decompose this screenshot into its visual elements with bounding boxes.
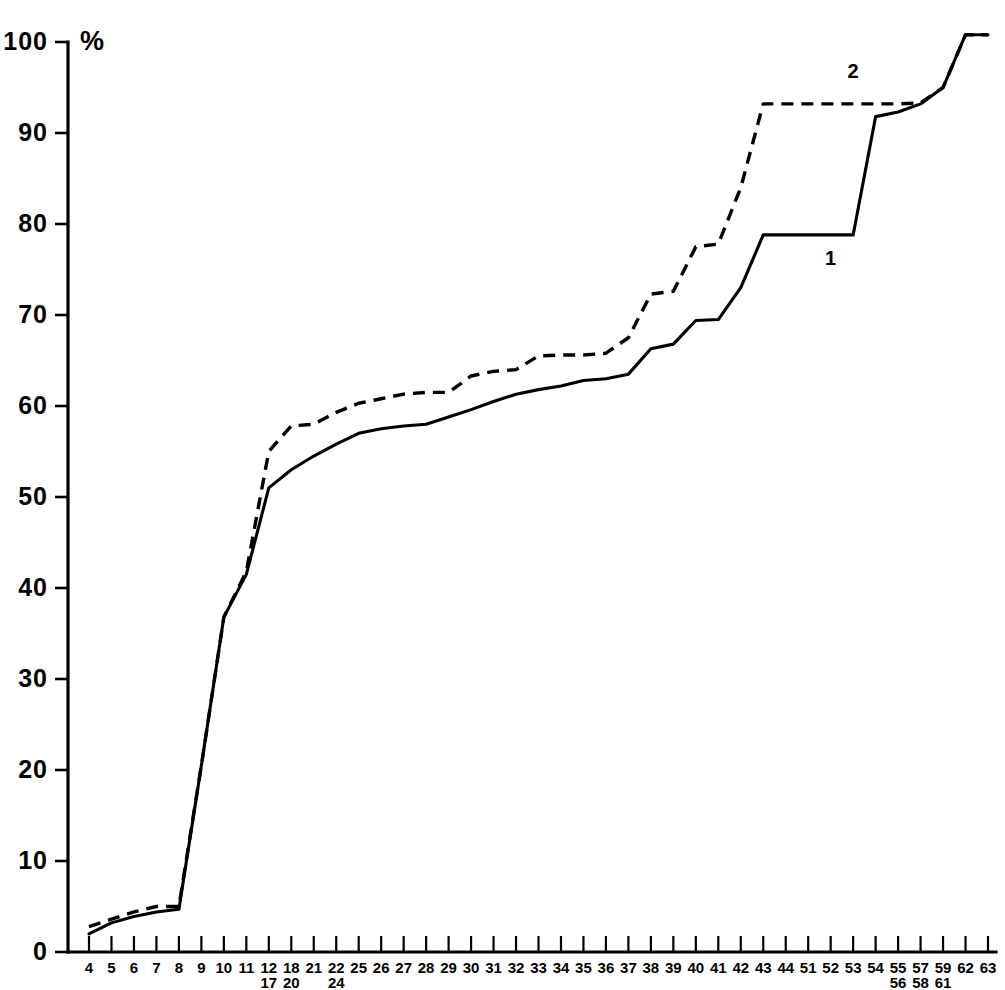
x-tick-label-40: 40	[687, 959, 704, 976]
y-tick-label-70: 70	[18, 300, 48, 328]
chart-canvas: 0102030405060708090100 45678910111217182…	[0, 0, 1005, 990]
x-tick-label-26: 26	[373, 959, 390, 976]
x-tick-sublabel-24: 24	[328, 974, 345, 990]
x-tick-group	[89, 936, 988, 952]
x-tick-label-35: 35	[575, 959, 592, 976]
x-tick-sublabel-61: 61	[935, 974, 952, 990]
x-tick-label-34: 34	[553, 959, 570, 976]
y-tick-label-60: 60	[18, 391, 48, 419]
chart-figure: 0102030405060708090100 45678910111217182…	[0, 0, 1005, 990]
y-tick-label-30: 30	[18, 664, 48, 692]
x-tick-label-54: 54	[867, 959, 884, 976]
x-tick-label-53: 53	[845, 959, 862, 976]
y-tick-label-80: 80	[18, 209, 48, 237]
x-tick-sublabel-20: 20	[283, 974, 300, 990]
y-tick-label-20: 20	[18, 755, 48, 783]
y-tick-label-0: 0	[33, 937, 48, 965]
x-tick-label-51: 51	[800, 959, 817, 976]
x-tick-label-8: 8	[175, 959, 183, 976]
x-tick-label-32: 32	[508, 959, 525, 976]
y-tick-label-50: 50	[18, 482, 48, 510]
x-tick-label-42: 42	[732, 959, 749, 976]
series-group	[89, 35, 988, 934]
x-tick-label-11: 11	[238, 959, 254, 976]
series-line-1	[89, 35, 988, 934]
x-tick-label-group: 4567891011121718202122242526272829303132…	[85, 959, 997, 990]
series-annotation-2: 2	[848, 60, 859, 82]
x-tick-label-31: 31	[485, 959, 502, 976]
x-tick-label-33: 33	[530, 959, 547, 976]
x-tick-label-39: 39	[665, 959, 682, 976]
x-tick-sublabel-17: 17	[260, 974, 277, 990]
x-tick-label-44: 44	[777, 959, 794, 976]
x-tick-label-6: 6	[130, 959, 138, 976]
x-tick-label-27: 27	[395, 959, 412, 976]
x-tick-sublabel-58: 58	[912, 974, 929, 990]
series-line-2	[89, 35, 988, 927]
x-tick-label-62: 62	[957, 959, 974, 976]
y-tick-label-40: 40	[18, 573, 48, 601]
x-tick-sublabel-56: 56	[890, 974, 907, 990]
x-tick-label-7: 7	[152, 959, 160, 976]
x-tick-label-43: 43	[755, 959, 772, 976]
x-tick-label-10: 10	[216, 959, 233, 976]
x-tick-label-52: 52	[822, 959, 839, 976]
series-annotation-1: 1	[825, 247, 836, 269]
y-tick-group	[55, 42, 68, 952]
x-tick-label-9: 9	[197, 959, 205, 976]
series-annotation-group: 12	[825, 60, 859, 269]
x-tick-label-28: 28	[418, 959, 435, 976]
axis-group	[68, 42, 996, 952]
x-tick-label-37: 37	[620, 959, 637, 976]
y-tick-label-group: 0102030405060708090100	[3, 27, 48, 965]
x-tick-label-4: 4	[85, 959, 94, 976]
y-tick-label-100: 100	[3, 27, 48, 55]
y-axis-unit-label: %	[80, 26, 104, 56]
x-tick-label-21: 21	[305, 959, 322, 976]
x-tick-label-5: 5	[107, 959, 115, 976]
x-tick-label-30: 30	[463, 959, 480, 976]
y-tick-label-90: 90	[18, 118, 48, 146]
x-tick-label-36: 36	[598, 959, 615, 976]
x-tick-label-38: 38	[643, 959, 660, 976]
x-tick-label-29: 29	[440, 959, 457, 976]
x-tick-label-41: 41	[710, 959, 727, 976]
y-tick-label-10: 10	[18, 846, 48, 874]
x-tick-label-25: 25	[350, 959, 367, 976]
x-tick-label-63: 63	[980, 959, 997, 976]
